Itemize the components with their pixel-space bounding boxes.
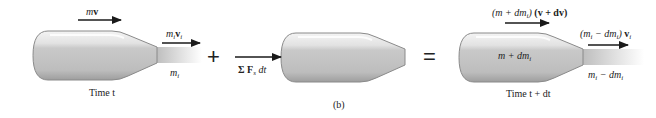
right-exhaust-plume	[582, 49, 644, 65]
exhaust-momentum-label-left: mivi	[166, 29, 182, 41]
momentum-diagram: mv mivi mi Time t + = Σ Fs dt (b) (m + d…	[0, 0, 656, 118]
exhaust-mass-label-right: mi − dmi	[588, 70, 623, 82]
time-label-left: Time t	[89, 88, 115, 98]
middle-rocket	[281, 33, 405, 82]
body-mass-label-right: m + dmi	[498, 51, 531, 63]
impulse-label: Σ Fs dt	[238, 65, 266, 77]
middle-rocket-body	[281, 33, 405, 82]
exhaust-mass-label-left: mi	[170, 68, 179, 80]
exhaust-momentum-label-right: (mi − dmi) vi	[580, 29, 631, 41]
time-label-right: Time t + dt	[506, 89, 550, 99]
left-rocket-body	[33, 31, 157, 80]
momentum-label-left: mv	[86, 7, 98, 17]
equals-operator: =	[423, 46, 436, 68]
plus-operator: +	[207, 46, 220, 68]
momentum-label-right: (m + dmi) (v + dv)	[492, 8, 567, 20]
left-exhaust-plume	[156, 47, 202, 63]
panel-label: (b)	[333, 100, 345, 110]
